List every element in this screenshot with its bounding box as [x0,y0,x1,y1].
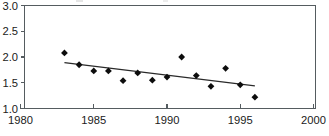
y-axis-ticks [21,6,25,109]
data-point [120,77,127,84]
x-tick-label-1990: 1990 [155,114,180,126]
data-point [90,68,97,75]
data-point [252,94,259,101]
data-point [76,61,83,68]
data-point [208,83,215,90]
y-tick-label-1-5: 1.5 [2,77,18,89]
data-point [222,65,229,72]
data-point [149,77,156,84]
y-tick-label-2-0: 2.0 [2,51,18,63]
x-tick-label-1995: 1995 [228,114,253,126]
y-tick-label-3-0: 3.0 [2,0,18,12]
scatter-chart: 3.0 2.5 2.0 1.5 1.0 1980 1985 1990 1995 … [0,0,329,136]
data-point [237,81,244,88]
x-tick-label-1985: 1985 [81,114,106,126]
data-point [178,54,185,61]
x-tick-label-1980: 1980 [8,114,33,126]
y-tick-label-2-5: 2.5 [2,25,18,37]
y-tick-label-1-0: 1.0 [2,103,18,115]
data-point [134,70,141,77]
top-crop-artifact [76,0,168,2]
x-axis-ticks [21,104,314,109]
plot-frame [21,6,316,109]
data-point-group [61,49,258,100]
x-tick-label-2000: 2000 [301,114,326,126]
data-point [61,49,68,56]
chart-canvas: 3.0 2.5 2.0 1.5 1.0 1980 1985 1990 1995 … [0,0,329,136]
